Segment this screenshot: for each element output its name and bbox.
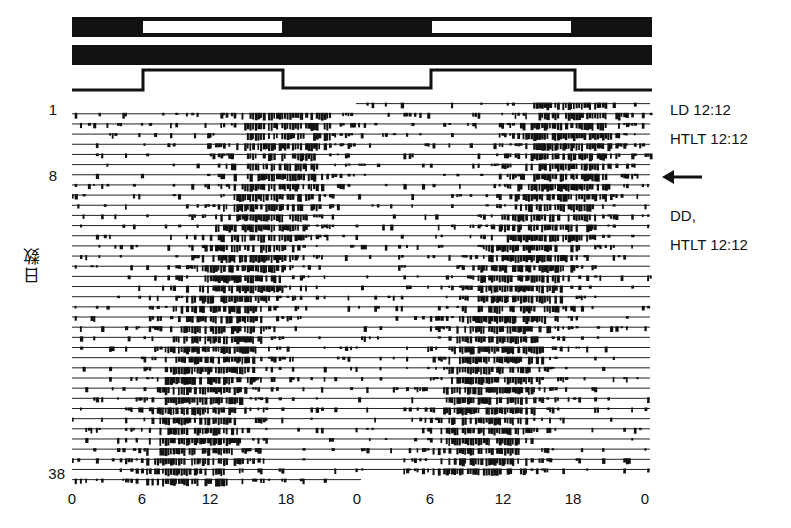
- x-tick-2: 12: [202, 490, 219, 507]
- x-tick-5: 6: [426, 490, 434, 507]
- x-tick-7: 18: [565, 490, 582, 507]
- condition-htlt-1: HTLT 12:12: [670, 130, 748, 147]
- y-axis-title: 日数: [20, 246, 45, 284]
- arrow-icon: [662, 168, 704, 190]
- day-label-1: 1: [27, 101, 57, 118]
- x-tick-3: 18: [278, 490, 295, 507]
- actogram-svg: [0, 0, 791, 528]
- condition-ld: LD 12:12: [670, 101, 731, 118]
- x-tick-8: 0: [641, 490, 649, 507]
- condition-htlt-2: HTLT 12:12: [670, 236, 748, 253]
- temperature-trace: [72, 70, 652, 90]
- day-label-38: 38: [35, 465, 65, 482]
- day-label-8: 8: [27, 167, 57, 184]
- actogram-rows: [72, 103, 653, 487]
- x-tick-1: 6: [138, 490, 146, 507]
- x-tick-4: 0: [353, 490, 361, 507]
- x-tick-0: 0: [68, 490, 76, 507]
- condition-dd: DD,: [670, 207, 696, 224]
- x-tick-6: 12: [495, 490, 512, 507]
